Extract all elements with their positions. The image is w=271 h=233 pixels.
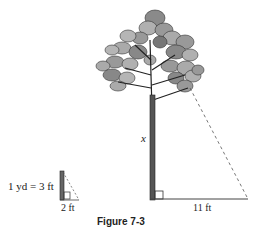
shadow-hypotenuse [190,88,248,199]
post-stick [60,171,64,200]
figure-canvas [0,0,271,233]
tree-height-label: x [141,132,146,144]
tree-trunk [150,95,155,200]
small-hypotenuse [63,172,79,200]
conversion-note: 1 yd = 3 ft [8,180,54,192]
figure-caption: Figure 7-3 [97,216,145,227]
small-base-label: 2 ft [61,202,75,213]
right-angle-marker [155,191,163,199]
shadow-base-label: 11 ft [193,202,211,213]
small-right-angle-marker [64,192,70,199]
